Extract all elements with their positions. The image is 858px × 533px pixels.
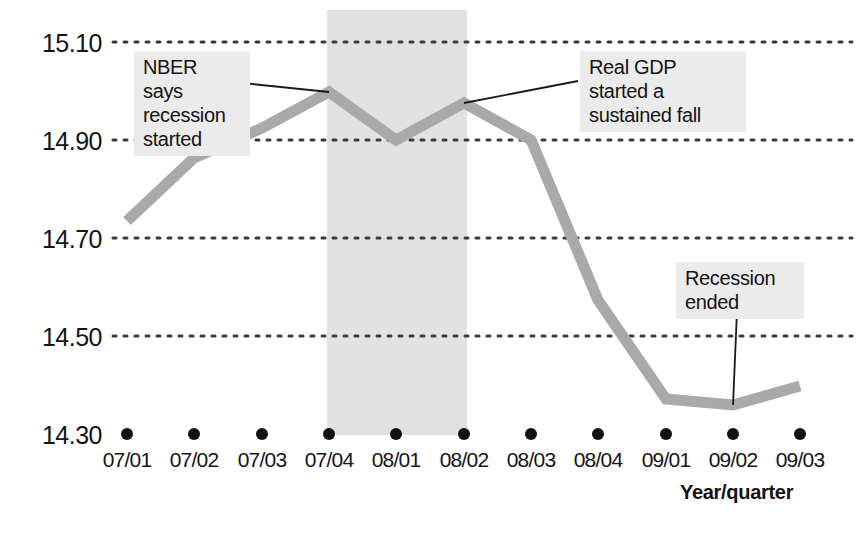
x-tick-label-09-03: 09/03 [760,448,840,472]
x-axis-title: Year/quarter [680,481,793,504]
x-tick-dot [525,428,537,440]
annotation-real-gdp-sustained-fall: Real GDP started a sustained fall [580,51,746,132]
y-tick-label-2: 14.90 [10,127,102,156]
y-tick-label-3: 14.70 [10,225,102,254]
x-tick-dot [458,428,470,440]
x-tick-dot [188,428,200,440]
x-tick-dot [256,428,268,440]
x-tick-dot [323,428,335,440]
y-tick-label-4: 14.50 [10,323,102,352]
gdp-recession-line-chart: 15.10 14.90 14.70 14.50 14.30 07/01 07/0… [0,0,858,533]
leader-line-recession-ended [733,311,737,405]
x-tick-dot [592,428,604,440]
annotation-recession-ended: Recession ended [676,262,804,319]
x-tick-dot [121,428,133,440]
x-tick-dot [794,428,806,440]
x-tick-dot [660,428,672,440]
recession-shaded-band [327,10,467,435]
leader-line-real-gdp [464,81,578,103]
x-tick-dot [390,428,402,440]
y-tick-label-5: 14.30 [10,421,102,450]
x-axis-tick-dots [121,428,806,440]
leader-line-nber [242,83,329,92]
y-tick-label-1: 15.10 [10,29,102,58]
annotation-nber-recession-started: NBER says recession started [134,51,250,156]
x-tick-dot [727,428,739,440]
